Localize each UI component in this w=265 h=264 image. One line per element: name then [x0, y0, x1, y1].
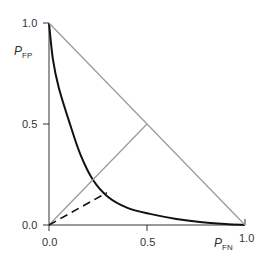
x-tick-label: 0.0 [42, 236, 57, 248]
y-tick-label: 1.0 [22, 17, 37, 29]
y-tick-label: 0.0 [22, 219, 37, 231]
x-tick-label: 0.5 [140, 236, 155, 248]
x-axis-label: PFN [214, 236, 233, 252]
x-tick-label: 1.0 [239, 232, 254, 244]
y-ticks [43, 23, 49, 225]
dashed-line [49, 193, 107, 225]
series-layer [49, 23, 245, 225]
chart: 1.0 0.5 0.0 0.0 0.5 1.0 PFP PFN [0, 0, 265, 264]
y-tick-label: 0.5 [22, 118, 37, 130]
y-axis-label: PFP [14, 44, 32, 60]
